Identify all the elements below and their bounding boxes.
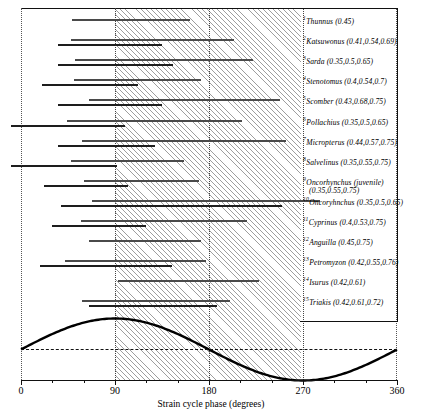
figure-panel: 1Thunnus (0.45)2Katsuwonus (0.41,0.54,0.… bbox=[0, 0, 422, 415]
zero-strain-dashed-line bbox=[21, 349, 397, 350]
x-axis-title: Strain cycle phase (degrees) bbox=[0, 399, 422, 409]
x-tick-label: 90 bbox=[110, 385, 120, 396]
x-minor-tick bbox=[240, 380, 241, 383]
x-tick-label: 270 bbox=[296, 385, 311, 396]
x-minor-tick bbox=[52, 380, 53, 383]
x-tick-label: 0 bbox=[19, 385, 24, 396]
strain-sine-curve bbox=[0, 0, 422, 415]
x-minor-tick bbox=[178, 380, 179, 383]
x-minor-tick bbox=[84, 380, 85, 383]
x-tick-label: 360 bbox=[390, 385, 405, 396]
x-minor-tick bbox=[366, 380, 367, 383]
x-minor-tick bbox=[146, 380, 147, 383]
x-tick-label: 180 bbox=[202, 385, 217, 396]
x-minor-tick bbox=[334, 380, 335, 383]
x-minor-tick bbox=[272, 380, 273, 383]
